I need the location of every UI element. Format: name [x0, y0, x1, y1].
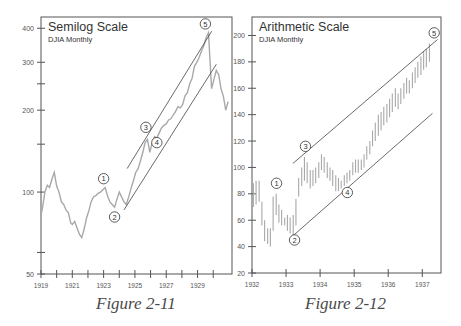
y-tick-label: 60	[237, 217, 245, 224]
chart-subtitle: DJIA Monthly	[259, 35, 303, 44]
x-tick-label: 1933	[279, 281, 294, 288]
channel-line-upper	[127, 31, 212, 168]
chart-title: Arithmetic Scale	[259, 20, 349, 34]
wave-label-1: 1	[271, 178, 281, 188]
x-tick-label: 1927	[159, 282, 174, 289]
x-tick-label: 1932	[245, 281, 260, 288]
wave-label-4: 4	[152, 137, 162, 147]
x-tick-label: 1925	[128, 282, 143, 289]
y-tick-label: 120	[233, 138, 245, 145]
y-tick-label: 200	[22, 107, 34, 114]
x-tick-label: 1936	[381, 281, 396, 288]
figure-caption-left: Figure 2-11	[96, 294, 176, 314]
plot-frame	[41, 17, 232, 274]
wave-label-3: 3	[141, 122, 151, 132]
wave-number: 4	[345, 188, 349, 197]
wave-number: 4	[155, 138, 159, 147]
y-tick-label: 180	[233, 58, 245, 65]
chart-subtitle: DJIA Monthly	[48, 35, 92, 44]
y-tick-label: 200	[233, 32, 245, 39]
y-tick-label: 40	[237, 243, 245, 250]
price-line	[41, 33, 228, 238]
wave-label-1: 1	[98, 173, 108, 183]
figure-caption-right: Figure 2-12	[305, 294, 386, 314]
wave-number: 1	[102, 174, 106, 183]
y-tick-label: 300	[22, 59, 34, 66]
y-tick-label: 100	[22, 189, 34, 196]
wave-label-2: 2	[109, 212, 119, 222]
y-tick-label: 160	[233, 85, 245, 92]
channel-line-upper	[293, 39, 438, 163]
y-tick-label: 50	[26, 271, 34, 278]
figure-canvas: 50100200300400191919211923192519271929Se…	[0, 0, 461, 326]
x-tick-label: 1919	[34, 282, 49, 289]
x-tick-label: 1921	[65, 282, 80, 289]
x-tick-label: 1937	[415, 281, 430, 288]
x-tick-label: 1929	[190, 282, 205, 289]
wave-label-5: 5	[200, 19, 210, 29]
channel-line-lower	[291, 113, 432, 237]
wave-number: 5	[432, 29, 436, 38]
y-tick-label: 100	[233, 164, 245, 171]
y-tick-label: 140	[233, 111, 245, 118]
wave-label-3: 3	[300, 141, 310, 151]
chart-title: Semilog Scale	[48, 20, 128, 34]
wave-number: 2	[292, 236, 296, 245]
channel-line-lower	[124, 64, 216, 210]
plot-frame	[252, 17, 441, 273]
semilog-chart: 50100200300400191919211923192519271929Se…	[22, 17, 232, 289]
x-tick-label: 1923	[96, 282, 111, 289]
wave-number: 5	[203, 20, 207, 29]
x-tick-label: 1934	[313, 281, 328, 288]
y-tick-label: 20	[237, 270, 245, 277]
wave-number: 3	[144, 123, 148, 132]
arithmetic-chart: 2040608010012014016018020019321933193419…	[233, 17, 441, 288]
wave-number: 2	[112, 213, 116, 222]
wave-label-5: 5	[429, 28, 439, 38]
y-tick-label: 400	[22, 25, 34, 32]
x-tick-label: 1935	[347, 281, 362, 288]
wave-number: 1	[274, 179, 278, 188]
y-tick-label: 80	[237, 190, 245, 197]
wave-label-2: 2	[289, 235, 299, 245]
wave-label-4: 4	[342, 187, 352, 197]
wave-number: 3	[303, 142, 307, 151]
